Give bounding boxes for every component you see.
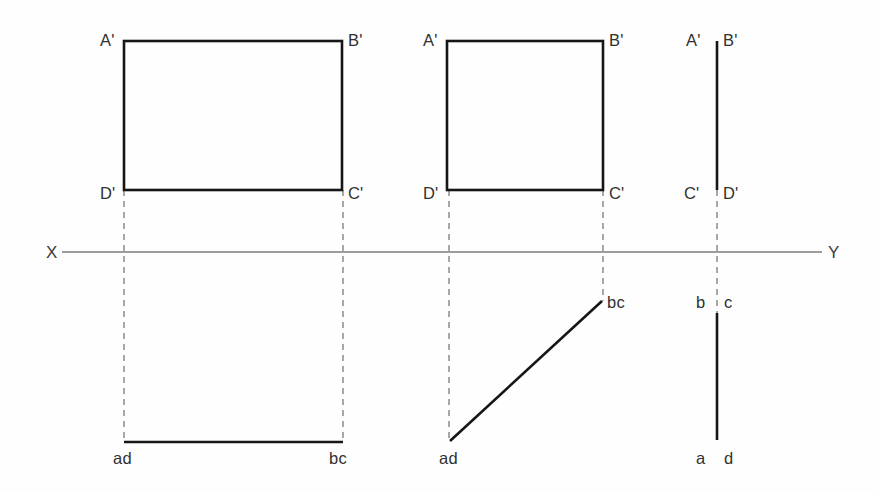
label-ad: ad (113, 449, 132, 467)
label-a: a (696, 449, 706, 467)
label-d-prime: D' (723, 184, 738, 202)
label-b-prime: B' (723, 31, 738, 49)
projection-drawing-root: A' B' C' D' ad bc A' B' C' D' ad bc (0, 0, 878, 492)
front-view-rectangle (447, 41, 603, 190)
top-view-diagonal-line (450, 301, 602, 441)
label-a-prime: A' (423, 31, 438, 49)
view-3-group: A' B' C' D' b c a d (684, 31, 738, 467)
label-bc: bc (607, 293, 625, 311)
orthographic-projection-canvas: A' B' C' D' ad bc A' B' C' D' ad bc (0, 0, 878, 492)
label-b: b (696, 293, 705, 311)
label-d: d (724, 449, 733, 467)
label-b-prime: B' (348, 31, 363, 49)
front-view-rectangle (124, 41, 342, 190)
label-ad: ad (439, 449, 458, 467)
axis-label-y: Y (828, 243, 839, 262)
label-c-prime: C' (348, 184, 363, 202)
label-c-prime: C' (609, 184, 624, 202)
label-d-prime: D' (423, 184, 438, 202)
xy-reference-axis-group: X Y (46, 243, 839, 262)
label-a-prime: A' (686, 31, 701, 49)
label-bc: bc (329, 449, 347, 467)
label-c-prime: C' (684, 184, 699, 202)
axis-label-x: X (46, 243, 57, 262)
label-b-prime: B' (609, 31, 624, 49)
view-2-group: A' B' C' D' ad bc (423, 31, 625, 467)
label-a-prime: A' (100, 31, 115, 49)
view-1-group: A' B' C' D' ad bc (100, 31, 363, 467)
label-d-prime: D' (100, 184, 115, 202)
label-c: c (724, 293, 732, 311)
